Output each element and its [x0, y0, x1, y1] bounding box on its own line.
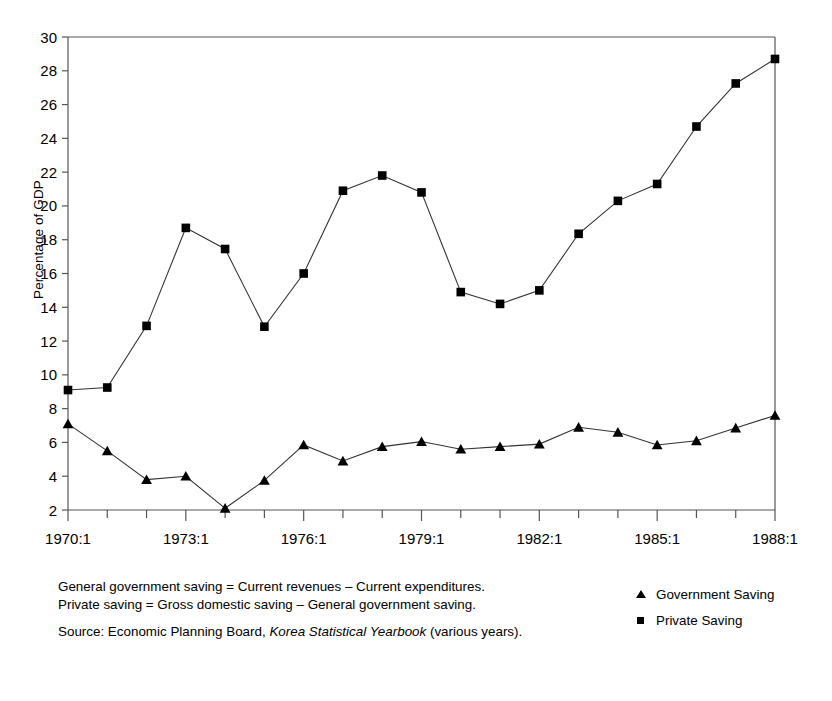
data-point-marker [103, 383, 112, 392]
x-axis-tick-label: 1970:1 [45, 530, 91, 547]
data-point-marker [378, 171, 387, 180]
data-point-marker [338, 456, 349, 466]
notes-block: General government saving = Current reve… [58, 578, 558, 641]
data-point-marker [416, 436, 427, 446]
source-suffix: (various years). [426, 624, 522, 639]
triangle-marker-icon [636, 590, 652, 598]
legend-item-private-saving: Private Saving [636, 609, 774, 631]
legend-item-government-saving: Government Saving [636, 583, 774, 605]
legend-label-government-saving: Government Saving [656, 587, 774, 602]
y-axis-tick-label: 2 [49, 502, 57, 519]
y-axis-tick-label: 14 [40, 299, 57, 316]
source-line: Source: Economic Planning Board, Korea S… [58, 623, 528, 641]
data-point-marker [260, 322, 269, 331]
data-point-marker [573, 422, 584, 432]
data-point-marker [102, 446, 113, 456]
series-line-government-saving [68, 415, 775, 508]
data-point-marker [691, 436, 702, 446]
x-axis-tick-label: 1985:1 [634, 530, 680, 547]
data-point-marker [298, 440, 309, 450]
y-axis-tick-label: 24 [40, 130, 57, 147]
figure-saving-rates-chart: Percentage of GDP 2468101214161820222426… [0, 0, 832, 701]
data-point-marker [64, 386, 73, 395]
note-line-1: General government saving = Current reve… [58, 578, 558, 596]
source-prefix: Source: Economic Planning Board, [58, 624, 269, 639]
data-point-marker [534, 439, 545, 449]
data-point-marker [182, 224, 191, 233]
chart-svg: 246810121416182022242628301970:11973:119… [0, 0, 832, 560]
data-point-marker [730, 423, 741, 433]
data-point-marker [456, 288, 465, 297]
y-axis-tick-label: 12 [40, 333, 57, 350]
y-axis-tick-label: 30 [40, 29, 57, 46]
data-point-marker [221, 245, 230, 254]
data-point-marker [770, 410, 781, 420]
note-line-2: Private saving = Gross domestic saving –… [58, 596, 558, 614]
data-point-marker [299, 269, 308, 278]
y-axis-tick-label: 8 [49, 400, 57, 417]
y-axis-tick-label: 10 [40, 366, 57, 383]
data-point-marker [180, 471, 191, 481]
y-axis-tick-label: 4 [49, 468, 57, 485]
y-axis-tick-label: 16 [40, 265, 57, 282]
y-axis-tick-label: 26 [40, 96, 57, 113]
y-axis-tick-label: 6 [49, 434, 57, 451]
x-axis-tick-label: 1988:1 [752, 530, 798, 547]
source-publication: Korea Statistical Yearbook [269, 624, 426, 639]
data-point-marker [63, 419, 74, 429]
y-axis-tick-label: 20 [40, 197, 57, 214]
legend-label-private-saving: Private Saving [656, 613, 742, 628]
y-axis-tick-label: 22 [40, 164, 57, 181]
data-point-marker [535, 286, 544, 295]
y-axis-tick-label: 28 [40, 62, 57, 79]
data-point-marker [339, 186, 348, 195]
data-point-marker [142, 322, 151, 331]
data-point-marker [417, 188, 426, 197]
y-axis-tick-label: 18 [40, 231, 57, 248]
plot-area: Percentage of GDP 2468101214161820222426… [0, 0, 832, 560]
data-point-marker [496, 300, 505, 309]
data-point-marker [653, 180, 662, 189]
x-axis-tick-label: 1973:1 [163, 530, 209, 547]
x-axis-tick-label: 1982:1 [516, 530, 562, 547]
x-axis-tick-label: 1976:1 [281, 530, 327, 547]
square-marker-icon [636, 617, 652, 624]
data-point-marker [692, 122, 701, 131]
data-point-marker [771, 55, 780, 64]
series-line-private-saving [68, 59, 775, 390]
data-point-marker [574, 230, 583, 239]
data-point-marker [614, 197, 623, 206]
x-axis-tick-label: 1979:1 [399, 530, 445, 547]
chart-legend: Government Saving Private Saving [636, 583, 774, 635]
data-point-marker [731, 79, 740, 88]
